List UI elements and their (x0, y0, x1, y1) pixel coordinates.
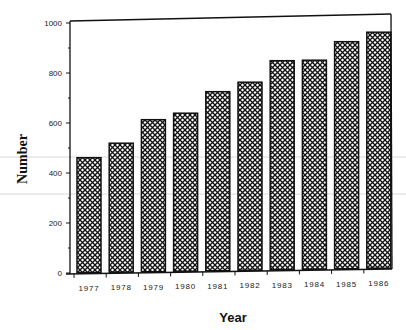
x-tick-label: 1977 (79, 284, 100, 293)
x-tick-label: 1983 (272, 281, 293, 290)
bar-1981 (206, 92, 230, 271)
y-tick-label: 600 (49, 119, 63, 128)
bar-chart: 02004006008001000 1977197819791980198119… (0, 0, 406, 330)
bar-1983 (270, 61, 294, 270)
y-tick-label: 200 (49, 219, 63, 228)
y-axis-ticks: 02004006008001000 (44, 19, 70, 278)
x-tick-label: 1982 (240, 281, 261, 290)
y-tick-label: 800 (49, 69, 63, 78)
bar-1985 (335, 42, 359, 269)
y-tick-label: 1000 (44, 19, 62, 28)
x-tick-label: 1985 (336, 280, 357, 289)
bar-1977 (77, 158, 101, 273)
bar-1978 (109, 143, 133, 272)
x-axis-title: Year (219, 310, 246, 325)
bars-group (77, 32, 391, 273)
y-tick-label: 400 (49, 169, 63, 178)
y-axis-title: Number (15, 134, 30, 184)
x-tick-label: 1980 (175, 282, 196, 291)
x-tick-label: 1984 (304, 280, 325, 289)
x-tick-label: 1979 (143, 283, 164, 292)
y-tick-label: 0 (58, 269, 63, 278)
x-tick-label: 1986 (368, 279, 389, 288)
bar-1986 (367, 32, 391, 268)
bar-1980 (174, 113, 198, 271)
x-tick-label: 1978 (111, 283, 132, 292)
top-border (70, 14, 391, 21)
bar-1982 (238, 82, 262, 270)
bar-1979 (141, 120, 165, 272)
bar-1984 (302, 60, 326, 269)
x-tick-label: 1981 (207, 282, 228, 291)
